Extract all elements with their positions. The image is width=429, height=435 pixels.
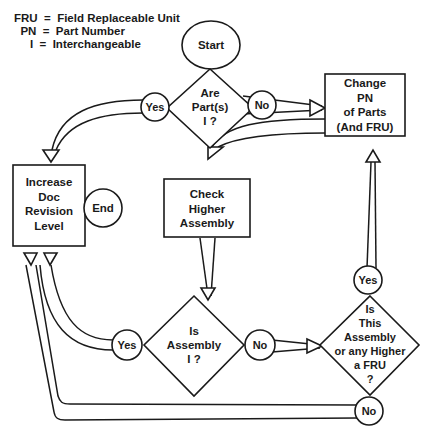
check-higher-label: Check Higher Assembly: [164, 187, 250, 231]
parts-no-label: No: [248, 98, 276, 112]
change-pn-line-3: of Parts: [325, 105, 405, 120]
check-higher-line-2: Higher: [164, 202, 250, 217]
parts-yes-label: Yes: [141, 100, 169, 114]
change-pn-line-4: (And FRU): [325, 120, 405, 135]
change-pn-label: Change PN of Parts (And FRU): [325, 76, 405, 134]
fru-no-label: No: [355, 404, 383, 418]
fru-yes-label: Yes: [354, 273, 382, 287]
increase-doc-label: Increase Doc Revision Level: [13, 175, 85, 233]
legend-row-fru: FRU = Field Replaceable Unit: [14, 12, 180, 25]
edge-assembly-yes-to-increase-doc: [40, 253, 113, 350]
assembly-decision-label: Is Assembly I ?: [154, 324, 234, 366]
increase-doc-line-2: Doc: [13, 190, 85, 205]
fru-decision-line-4: or any Higher: [320, 344, 420, 358]
edge-assembly-no-to-fru-decision: [272, 339, 322, 353]
assembly-decision-line-1: Is: [154, 324, 234, 338]
edge-parts-yes-to-increase-doc: [43, 100, 143, 162]
parts-decision-line-2: Part(s): [175, 100, 245, 114]
fru-decision-line-6: ?: [320, 372, 420, 386]
edge-fru-yes-to-change-pn: [366, 150, 380, 268]
parts-decision-line-3: I ?: [175, 114, 245, 128]
parts-decision-line-1: Are: [175, 86, 245, 100]
assembly-yes-label: Yes: [112, 338, 142, 352]
assembly-decision-line-3: I ?: [154, 352, 234, 366]
assembly-no-label: No: [245, 338, 275, 352]
end-label: End: [84, 201, 122, 215]
fru-decision-line-1: Is: [320, 302, 420, 316]
change-pn-line-1: Change: [325, 76, 405, 91]
fru-decision-line-3: Assembly: [320, 330, 420, 344]
increase-doc-line-1: Increase: [13, 175, 85, 190]
legend-row-pn: PN = Part Number: [14, 25, 180, 38]
legend-row-i: I = Interchangeable: [14, 38, 180, 51]
parts-decision-label: Are Part(s) I ?: [175, 86, 245, 128]
change-pn-line-2: PN: [325, 91, 405, 106]
legend: FRU = Field Replaceable Unit PN = Part N…: [14, 12, 180, 51]
assembly-decision-line-2: Assembly: [154, 338, 234, 352]
fru-decision-label: Is This Assembly or any Higher a FRU ?: [320, 302, 420, 386]
edge-check-higher-to-assembly-decision: [200, 238, 215, 300]
increase-doc-line-3: Revision: [13, 204, 85, 219]
check-higher-line-3: Assembly: [164, 216, 250, 231]
increase-doc-line-4: Level: [13, 219, 85, 234]
fru-decision-line-5: a FRU: [320, 358, 420, 372]
start-label: Start: [183, 38, 239, 52]
fru-decision-line-2: This: [320, 316, 420, 330]
check-higher-line-1: Check: [164, 187, 250, 202]
